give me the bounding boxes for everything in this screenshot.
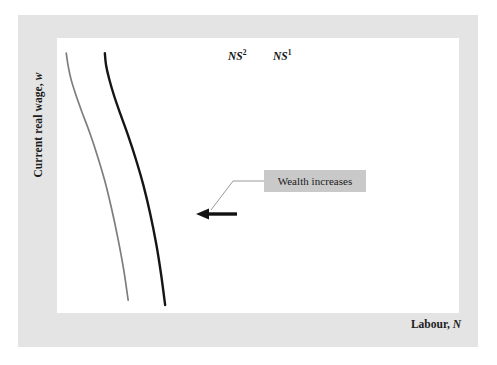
curve-label-ns1-superscript: 1 [288, 48, 292, 57]
y-axis-title-text: Current real wage, [32, 80, 44, 177]
x-axis-title-text: Labour, [411, 318, 453, 330]
curve-label-ns1-text: NS [273, 50, 288, 62]
x-axis-title: Labour, N [300, 318, 475, 330]
curve-label-ns2-superscript: 2 [243, 48, 247, 57]
curve-label-ns2: NS2 [228, 50, 246, 62]
annotation-callout-box: Wealth increases [264, 170, 366, 192]
curve-label-ns1: NS1 [273, 50, 291, 62]
y-axis-title: Current real wage, w [18, 15, 57, 290]
curve-label-ns2-text: NS [228, 50, 243, 62]
x-axis-symbol: N [453, 318, 461, 330]
plot-area [57, 38, 459, 313]
annotation-text: Wealth increases [278, 175, 353, 187]
y-axis-symbol: w [32, 72, 44, 80]
figure-container: Current real wage, w Labour, N NS2 NS1 W… [0, 0, 497, 365]
